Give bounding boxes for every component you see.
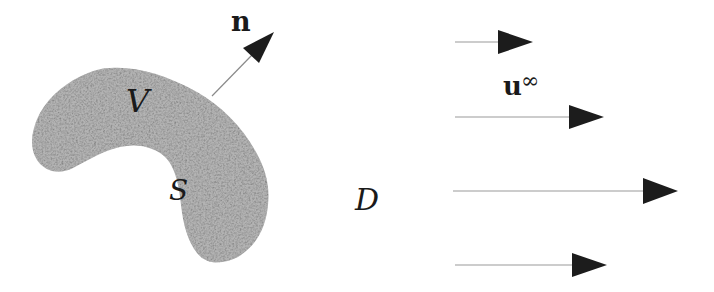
normal-arrow <box>212 32 274 96</box>
freestream-label-base: u <box>503 71 522 101</box>
surface-label: S <box>169 174 188 207</box>
freestream-arrow-1 <box>455 30 533 54</box>
freestream-arrow-4 <box>455 253 607 277</box>
freestream-label-superscript: ∞ <box>521 68 539 93</box>
freestream-arrow-3 <box>453 178 678 204</box>
flow-diagram: V S n D u ∞ <box>0 0 714 292</box>
volume-label: V <box>126 82 152 120</box>
freestream-arrow-3-head-icon <box>643 178 678 204</box>
normal-vector-label: n <box>231 6 251 37</box>
domain-label: D <box>354 182 379 217</box>
freestream-arrows <box>453 30 678 277</box>
freestream-arrow-1-head-icon <box>498 30 533 54</box>
normal-arrow-shaft <box>212 55 252 96</box>
freestream-arrow-2 <box>455 105 604 129</box>
freestream-label: u ∞ <box>503 68 539 101</box>
freestream-arrow-2-head-icon <box>569 105 604 129</box>
diagram-canvas: V S n D u ∞ <box>0 0 714 292</box>
freestream-arrow-4-head-icon <box>572 253 607 277</box>
body-region <box>32 68 269 263</box>
